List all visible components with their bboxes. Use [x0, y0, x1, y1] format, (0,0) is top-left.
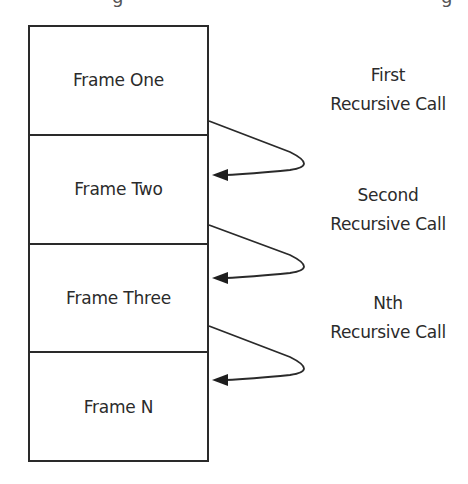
call-label-line2: Recursive Call	[308, 318, 468, 347]
call-label-line1: First	[308, 61, 468, 90]
call-label-line2: Recursive Call	[308, 210, 468, 239]
call-label-second: Second Recursive Call	[308, 181, 468, 239]
call-label-first: First Recursive Call	[308, 61, 468, 119]
call-label-line2: Recursive Call	[308, 90, 468, 119]
arrow-nth-call-icon	[209, 326, 304, 386]
call-label-line1: Nth	[308, 289, 468, 318]
arrow-second-call-icon	[209, 225, 304, 284]
call-label-line1: Second	[308, 181, 468, 210]
arrow-first-call-icon	[209, 121, 304, 181]
call-label-nth: Nth Recursive Call	[308, 289, 468, 347]
